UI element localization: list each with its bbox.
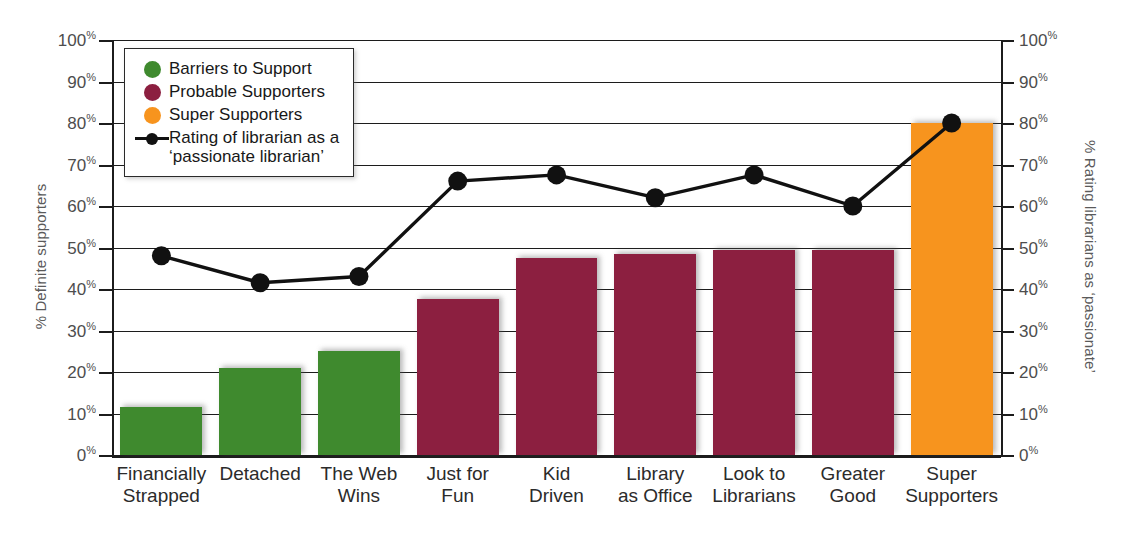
tick-mark-right-10 [1001,414,1014,416]
x-axis-label-line: Look to [705,463,804,485]
tick-mark-left-0 [99,455,112,457]
x-axis-label-line: Super [902,463,1001,485]
legend-item-1[interactable]: Probable Supporters [135,81,339,103]
tick-mark-right-20 [1001,372,1014,374]
legend-swatch-icon [135,104,169,126]
tick-label-20: 20% [1019,362,1089,381]
tick-label-30: 30% [1019,321,1089,340]
legend-item-2[interactable]: Super Supporters [135,104,339,126]
tick-label-0: 0% [1019,445,1089,464]
x-axis-label-1: Detached [211,463,310,485]
tick-mark-left-40 [99,289,112,291]
line-marker-0 [152,246,171,265]
x-axis-label-8: SuperSupporters [902,463,1001,508]
line-marker-8 [942,114,961,133]
x-axis-label-5: Libraryas Office [606,463,705,508]
x-axis-label-line: Just for [408,463,507,485]
line-marker-7 [843,197,862,216]
tick-label-40: 40% [1019,279,1089,298]
x-axis-label-line: Wins [310,485,409,507]
legend-line-marker-icon [135,127,169,149]
x-axis-label-line: Library [606,463,705,485]
tick-mark-left-100 [99,40,112,42]
x-axis-label-line: as Office [606,485,705,507]
tick-mark-left-30 [99,331,112,333]
legend-swatch-icon [135,58,169,80]
tick-label-40: 40% [34,279,96,298]
tick-label-70: 70% [34,155,96,174]
x-axis-label-line: Financially [112,463,211,485]
tick-label-10: 10% [34,404,96,423]
tick-mark-left-10 [99,414,112,416]
bar-line-combo-chart: % Definite supporters % Rating librarian… [0,0,1131,545]
tick-mark-left-50 [99,248,112,250]
legend-swatch-icon [135,81,169,103]
line-marker-5 [646,188,665,207]
tick-mark-right-60 [1001,206,1014,208]
x-axis-label-6: Look toLibrarians [705,463,804,508]
tick-label-100: 100% [34,30,96,49]
tick-mark-right-0 [1001,455,1014,457]
tick-mark-left-60 [99,206,112,208]
circle-swatch-icon [144,84,161,101]
legend-item-label: Rating of librarian as a ‘passionate lib… [169,127,339,166]
tick-mark-right-100 [1001,40,1014,42]
x-axis-label-line: Strapped [112,485,211,507]
x-axis-label-2: The WebWins [310,463,409,508]
legend-item-0[interactable]: Barriers to Support [135,58,339,80]
line-marker-4 [547,165,566,184]
tick-label-0: 0% [34,445,96,464]
tick-mark-right-90 [1001,82,1014,84]
x-axis-label-4: KidDriven [507,463,606,508]
x-axis-label-line: Librarians [705,485,804,507]
tick-label-60: 60% [1019,196,1089,215]
line-marker-3 [448,172,467,191]
tick-label-60: 60% [34,196,96,215]
tick-label-70: 70% [1019,155,1089,174]
tick-label-50: 50% [1019,238,1089,257]
legend-item-label: Super Supporters [169,104,302,124]
x-axis-label-line: Driven [507,485,606,507]
tick-mark-right-40 [1001,289,1014,291]
tick-label-80: 80% [1019,113,1089,132]
x-axis-label-line: Good [803,485,902,507]
tick-label-90: 90% [1019,72,1089,91]
axis-baseline [112,455,1001,458]
x-axis-label-line: Fun [408,485,507,507]
line-marker-1 [251,273,270,292]
x-axis-label-line: Kid [507,463,606,485]
tick-label-90: 90% [34,72,96,91]
tick-label-10: 10% [1019,404,1089,423]
line-marker-6 [745,165,764,184]
line-marker-2 [349,267,368,286]
tick-mark-left-80 [99,123,112,125]
x-axis-label-line: Greater [803,463,902,485]
tick-mark-left-90 [99,82,112,84]
x-axis-category-labels: FinanciallyStrappedDetachedThe WebWinsJu… [112,463,1001,523]
tick-mark-right-30 [1001,331,1014,333]
tick-label-100: 100% [1019,30,1089,49]
tick-mark-right-80 [1001,123,1014,125]
x-axis-label-3: Just forFun [408,463,507,508]
x-axis-label-7: GreaterGood [803,463,902,508]
tick-label-20: 20% [34,362,96,381]
tick-mark-left-20 [99,372,112,374]
x-axis-label-line: The Web [310,463,409,485]
tick-mark-right-50 [1001,248,1014,250]
tick-label-30: 30% [34,321,96,340]
tick-mark-left-70 [99,165,112,167]
x-axis-label-line: Detached [211,463,310,485]
legend-item-label: Barriers to Support [169,58,312,78]
legend-item-3[interactable]: Rating of librarian as a ‘passionate lib… [135,127,339,166]
circle-swatch-icon [144,61,161,78]
legend-item-label: Probable Supporters [169,81,325,101]
x-axis-label-0: FinanciallyStrapped [112,463,211,508]
chart-legend: Barriers to SupportProbable SupportersSu… [124,48,354,177]
tick-label-80: 80% [34,113,96,132]
x-axis-label-line: Supporters [902,485,1001,507]
tick-label-50: 50% [34,238,96,257]
tick-mark-right-70 [1001,165,1014,167]
circle-swatch-icon [144,107,161,124]
clipped-title-sliver [0,0,1131,6]
